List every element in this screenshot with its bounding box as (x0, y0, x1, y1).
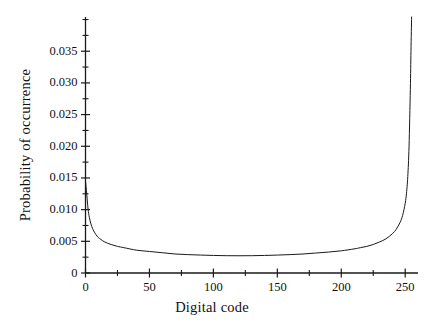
y-axis-label: Probability of occurrence (17, 69, 34, 221)
y-axis-label-container: Probability of occurrence (14, 0, 36, 290)
y-tick-label: 0.025 (0, 108, 78, 121)
y-tick-label: 0.010 (0, 203, 78, 216)
y-tick-label: 0 (0, 267, 78, 280)
x-tick-label: 100 (193, 281, 233, 294)
x-tick-label: 250 (385, 281, 424, 294)
x-tick-label: 150 (257, 281, 297, 294)
y-tick-label: 0.005 (0, 235, 78, 248)
data-series-line (86, 17, 412, 256)
y-tick-label: 0.020 (0, 140, 78, 153)
y-tick-label: 0.030 (0, 76, 78, 89)
x-tick-label: 200 (321, 281, 361, 294)
x-axis-label: Digital code (0, 299, 424, 316)
y-tick-label: 0.015 (0, 171, 78, 184)
y-tick-label: 0.035 (0, 45, 78, 58)
x-tick-label: 0 (66, 281, 106, 294)
figure-probability-of-occurrence: 00.0050.0100.0150.0200.0250.0300.035 050… (0, 0, 424, 327)
x-tick-label: 50 (129, 281, 169, 294)
